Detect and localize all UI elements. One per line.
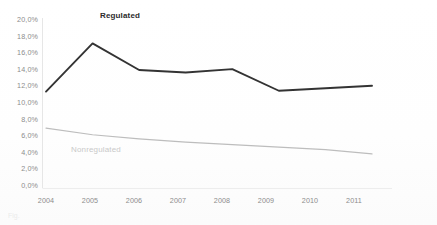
x-axis-tick-label: 2005 bbox=[70, 196, 110, 205]
x-axis-tick-label: 2008 bbox=[202, 196, 242, 205]
plot-area bbox=[0, 0, 437, 225]
series-label-nonregulated: Nonregulated bbox=[71, 145, 121, 154]
caption-remnant: Fig. bbox=[8, 212, 64, 220]
series-line-regulated bbox=[46, 43, 372, 91]
x-axis-tick-label: 2010 bbox=[290, 196, 330, 205]
x-axis-tick-label: 2006 bbox=[114, 196, 154, 205]
x-axis-tick-label: 2009 bbox=[246, 196, 286, 205]
series-label-regulated: Regulated bbox=[100, 11, 140, 20]
chart-container: 20,0% 18,0% 16,0% 14,0% 12,0% 10,0% 8,0%… bbox=[0, 0, 437, 225]
x-axis-tick-label: 2011 bbox=[334, 196, 374, 205]
x-axis-tick-label: 2007 bbox=[158, 196, 198, 205]
x-axis-tick-label: 2004 bbox=[26, 196, 66, 205]
